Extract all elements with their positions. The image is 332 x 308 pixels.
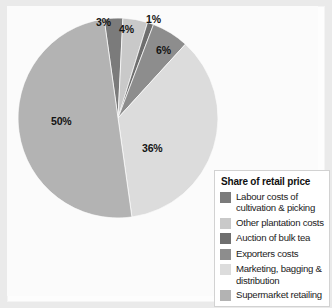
- slice-label-labour: 3%: [96, 16, 111, 28]
- legend-item-labour: Labour costs of cultivation & picking: [220, 191, 325, 213]
- slice-label-other-plantation: 4%: [119, 23, 134, 35]
- legend-swatch-auction: [220, 233, 231, 244]
- pie-chart: 3% 4% 1% 6% 36% 50%: [18, 18, 218, 218]
- pie-circle: [18, 18, 218, 218]
- slice-label-supermarket: 50%: [51, 115, 71, 127]
- slice-label-auction: 1%: [146, 13, 161, 25]
- slice-label-marketing: 36%: [142, 142, 162, 154]
- legend-label-labour: Labour costs of cultivation & picking: [236, 191, 325, 213]
- legend-item-other-plantation: Other plantation costs: [220, 217, 325, 229]
- legend-swatch-other-plantation: [220, 218, 231, 229]
- legend-title: Share of retail price: [221, 176, 325, 187]
- legend-swatch-exporters: [220, 249, 231, 260]
- legend-label-exporters: Exporters costs: [236, 248, 298, 259]
- legend-item-list: Labour costs of cultivation & pickingOth…: [220, 191, 325, 301]
- pie-svg: [18, 18, 218, 218]
- legend-label-marketing: Marketing, bagging & distribution: [236, 263, 325, 285]
- legend-swatch-marketing: [220, 264, 231, 275]
- legend-label-other-plantation: Other plantation costs: [236, 217, 324, 228]
- legend-label-auction: Auction of bulk tea: [236, 232, 310, 243]
- legend-item-supermarket: Supermarket retailing: [220, 289, 325, 301]
- legend-label-supermarket: Supermarket retailing: [236, 289, 322, 300]
- slice-label-exporters: 6%: [156, 44, 171, 56]
- legend-item-marketing: Marketing, bagging & distribution: [220, 263, 325, 285]
- chart-root: 3% 4% 1% 6% 36% 50% Share of retail pric…: [0, 0, 332, 308]
- legend-item-auction: Auction of bulk tea: [220, 232, 325, 244]
- legend-swatch-labour: [220, 192, 231, 203]
- legend-item-exporters: Exporters costs: [220, 248, 325, 260]
- legend-box: Share of retail price Labour costs of cu…: [214, 170, 330, 307]
- legend-swatch-supermarket: [220, 290, 231, 301]
